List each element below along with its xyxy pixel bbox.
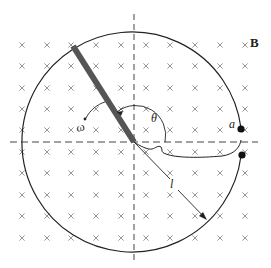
field-x-mark — [192, 63, 197, 68]
field-x-mark — [19, 106, 24, 111]
field-x-mark — [167, 85, 172, 90]
field-x-mark — [167, 235, 172, 240]
field-x-mark — [93, 106, 98, 111]
field-x-mark — [68, 106, 73, 111]
rotating-rod-in-magnetic-field-diagram: B a θ ω l — [0, 0, 271, 268]
angle-label-theta: θ — [151, 111, 157, 125]
field-x-mark — [143, 235, 148, 240]
length-label-l: l — [170, 177, 174, 191]
field-x-mark — [68, 170, 73, 175]
field-x-mark — [242, 106, 247, 111]
field-x-mark — [242, 235, 247, 240]
point-label-a: a — [229, 117, 235, 131]
field-x-mark — [44, 192, 49, 197]
field-x-mark — [93, 149, 98, 154]
field-x-mark — [167, 213, 172, 218]
contact-point-a — [237, 125, 244, 132]
field-x-mark — [93, 42, 98, 47]
field-x-mark — [93, 170, 98, 175]
field-x-mark — [217, 106, 222, 111]
field-x-mark — [19, 42, 24, 47]
field-x-mark — [167, 63, 172, 68]
field-x-mark — [167, 149, 172, 154]
field-x-mark — [44, 106, 49, 111]
field-x-mark — [143, 42, 148, 47]
field-x-mark — [44, 63, 49, 68]
field-x-mark — [192, 235, 197, 240]
field-x-mark — [143, 127, 148, 132]
field-x-mark — [242, 63, 247, 68]
connecting-wire — [134, 140, 241, 157]
field-x-mark — [19, 192, 24, 197]
field-x-mark — [93, 235, 98, 240]
field-label-B: B — [250, 35, 259, 50]
field-x-mark — [167, 106, 172, 111]
field-x-mark — [44, 235, 49, 240]
field-x-mark — [143, 213, 148, 218]
field-x-mark — [192, 85, 197, 90]
field-x-mark — [192, 127, 197, 132]
field-x-mark — [118, 42, 123, 47]
field-x-mark — [217, 192, 222, 197]
field-x-mark — [242, 85, 247, 90]
field-x-mark — [68, 63, 73, 68]
field-x-mark — [143, 170, 148, 175]
field-x-mark — [93, 192, 98, 197]
omega-arc-end — [84, 118, 87, 121]
field-x-mark — [192, 42, 197, 47]
field-x-mark — [44, 170, 49, 175]
field-x-mark — [242, 213, 247, 218]
field-x-mark — [217, 235, 222, 240]
field-x-mark — [93, 63, 98, 68]
field-x-mark — [93, 127, 98, 132]
field-x-mark — [93, 213, 98, 218]
field-x-mark — [118, 63, 123, 68]
field-x-mark — [68, 149, 73, 154]
field-x-mark — [118, 192, 123, 197]
field-x-mark — [19, 170, 24, 175]
field-x-mark — [192, 149, 197, 154]
field-x-mark — [118, 235, 123, 240]
field-x-mark — [44, 149, 49, 154]
field-x-mark — [192, 106, 197, 111]
field-x-mark — [68, 85, 73, 90]
field-x-mark — [143, 192, 148, 197]
field-x-mark — [118, 85, 123, 90]
field-x-mark — [143, 85, 148, 90]
field-x-mark — [167, 192, 172, 197]
field-x-mark — [242, 192, 247, 197]
field-x-mark — [217, 63, 222, 68]
field-x-mark — [19, 63, 24, 68]
contact-point-lower — [238, 151, 245, 158]
field-x-mark — [118, 213, 123, 218]
field-x-mark — [19, 235, 24, 240]
radius-line-upper — [134, 142, 170, 179]
field-x-mark — [118, 170, 123, 175]
angular-velocity-label-omega: ω — [74, 119, 86, 135]
field-x-mark — [118, 149, 123, 154]
field-x-mark — [167, 170, 172, 175]
field-x-mark — [242, 42, 247, 47]
field-x-mark — [217, 149, 222, 154]
field-x-mark — [192, 170, 197, 175]
field-x-mark — [19, 85, 24, 90]
field-x-mark — [192, 213, 197, 218]
field-x-mark — [44, 85, 49, 90]
field-x-mark — [68, 213, 73, 218]
field-x-mark — [68, 192, 73, 197]
field-x-mark — [44, 42, 49, 47]
field-x-mark — [44, 127, 49, 132]
field-x-mark — [217, 127, 222, 132]
field-x-mark — [192, 192, 197, 197]
field-x-mark — [143, 63, 148, 68]
field-x-mark — [167, 42, 172, 47]
field-x-mark — [68, 127, 73, 132]
field-x-mark — [217, 42, 222, 47]
field-x-mark — [217, 85, 222, 90]
field-x-mark — [242, 170, 247, 175]
field-x-mark — [217, 213, 222, 218]
field-x-mark — [217, 170, 222, 175]
field-x-mark — [68, 235, 73, 240]
field-x-mark — [19, 213, 24, 218]
field-x-mark — [167, 127, 172, 132]
